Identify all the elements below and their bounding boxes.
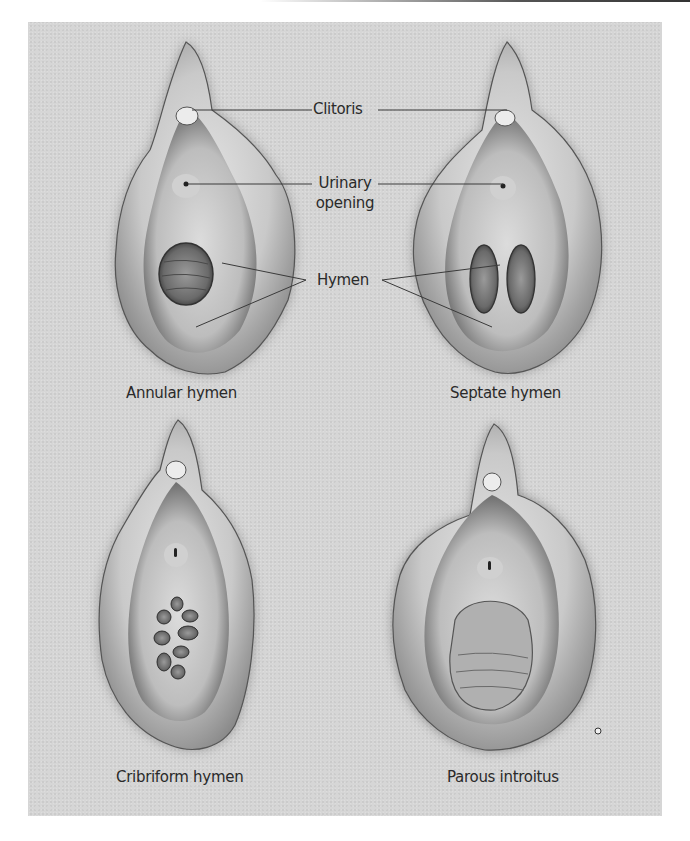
caption-septate-hymen: Septate hymen <box>450 384 561 402</box>
cribriform-hymen-illustration <box>99 420 254 749</box>
caption-parous-introitus: Parous introitus <box>447 768 559 786</box>
septate-hymen-illustration <box>413 42 601 373</box>
callout-clitoris: Clitoris <box>313 100 363 118</box>
callout-urinary-opening-line1: Urinary <box>310 174 380 192</box>
anatomy-illustrations <box>0 0 690 841</box>
caption-cribriform-hymen: Cribriform hymen <box>116 768 243 786</box>
annular-hymen-illustration <box>115 42 294 374</box>
parous-introitus-illustration <box>393 424 601 750</box>
callout-urinary-opening-line2: opening <box>310 194 380 212</box>
callout-hymen: Hymen <box>317 271 369 289</box>
caption-annular-hymen: Annular hymen <box>126 384 237 402</box>
